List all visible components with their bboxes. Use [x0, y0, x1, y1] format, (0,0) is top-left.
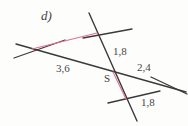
geometry-figure: d) 3,6 1,8 2,4 1,8 S: [0, 0, 188, 126]
measurement-label-left: 3,6: [56, 63, 70, 74]
geometry-diagram: [0, 0, 188, 126]
line-upper-crossbar: [83, 29, 132, 38]
highlight-upper-chord: [32, 33, 97, 49]
line-long-transversal: [16, 44, 186, 92]
measurement-label-lower: 1,8: [141, 97, 155, 108]
measurement-label-right: 2,4: [137, 62, 151, 73]
part-label: d): [41, 9, 52, 22]
highlight-lower-chord: [113, 72, 126, 99]
point-label-s: S: [104, 73, 110, 84]
measurement-label-upper: 1,8: [113, 46, 127, 57]
